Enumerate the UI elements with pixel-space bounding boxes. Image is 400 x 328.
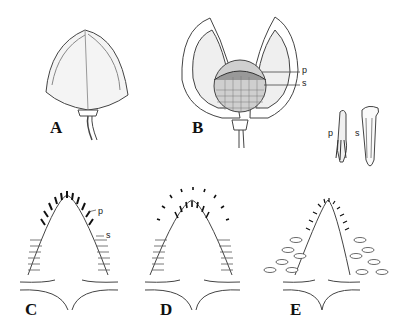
annotation-p-b: p xyxy=(302,65,307,75)
botanical-illustration xyxy=(0,0,400,328)
panel-c-diagram xyxy=(20,191,118,310)
panel-e-diagram xyxy=(264,198,388,310)
annotation-s: s xyxy=(355,128,360,138)
annotation-p-c: p xyxy=(98,206,103,216)
panel-label-d: D xyxy=(160,300,172,320)
panel-d-diagram xyxy=(145,187,240,310)
panel-label-e: E xyxy=(290,300,301,320)
panel-label-a: A xyxy=(50,118,62,138)
annotation-p: p xyxy=(328,128,333,138)
panel-label-c: C xyxy=(25,300,37,320)
annotation-s-c: s xyxy=(106,230,111,240)
panel-label-b: B xyxy=(192,118,203,138)
annotation-s-b: s xyxy=(302,78,307,88)
